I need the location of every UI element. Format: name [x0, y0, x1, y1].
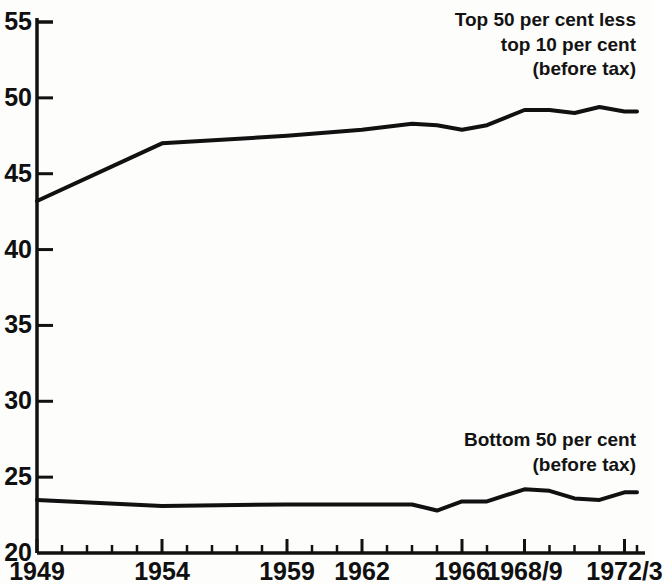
top-series-annotation: Top 50 per cent less top 10 per cent (be… [455, 8, 636, 82]
x-axis-tick-label: 1949 [9, 559, 65, 584]
y-axis-tick-label: 35 [0, 312, 32, 337]
x-axis-tick-label: 1972/3 [586, 559, 662, 584]
bottom-series-annotation: Bottom 50 per cent (before tax) [464, 428, 636, 477]
top-series-line [37, 107, 637, 201]
x-axis-tick-label: 1968/9 [486, 559, 562, 584]
x-axis-tick-label: 1966 [434, 559, 490, 584]
y-axis-tick-label: 55 [0, 9, 32, 34]
y-axis-tick-label: 30 [0, 388, 32, 413]
x-axis-tick-label: 1954 [134, 559, 190, 584]
x-axis-tick-label: 1959 [259, 559, 315, 584]
y-axis-tick-label: 50 [0, 85, 32, 110]
x-axis-tick-label: 1962 [334, 559, 390, 584]
y-axis-tick-label: 25 [0, 464, 32, 489]
bottom-series-line [37, 489, 637, 510]
y-axis-tick-label: 45 [0, 161, 32, 186]
y-axis-tick-label: 40 [0, 237, 32, 262]
